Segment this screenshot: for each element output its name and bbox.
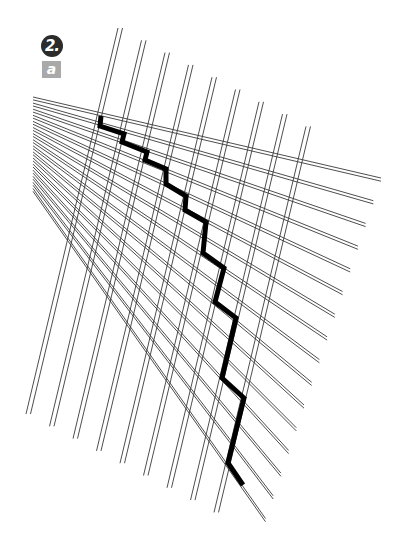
vertical-line bbox=[54, 40, 146, 426]
vertical-line bbox=[73, 53, 165, 439]
folding-diagram bbox=[0, 0, 404, 542]
vertical-line bbox=[26, 28, 118, 414]
horizontal-line bbox=[33, 176, 281, 473]
horizontal-line bbox=[33, 140, 327, 337]
horizontal-line bbox=[33, 179, 281, 476]
horizontal-line-pairs bbox=[33, 97, 381, 522]
vertical-line-pairs bbox=[26, 28, 311, 512]
horizontal-line bbox=[33, 124, 350, 272]
horizontal-line bbox=[33, 167, 296, 431]
horizontal-line bbox=[33, 170, 289, 450]
horizontal-line bbox=[33, 173, 289, 454]
horizontal-line bbox=[33, 182, 273, 495]
horizontal-line bbox=[33, 103, 373, 201]
vertical-line bbox=[191, 114, 283, 500]
vertical-line bbox=[125, 77, 217, 463]
